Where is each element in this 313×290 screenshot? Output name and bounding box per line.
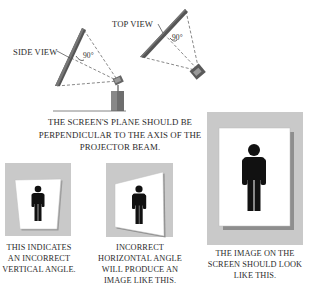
panel-caption-vertical: THIS INDICATES AN INCORRECT VERTICAL ANG… <box>0 242 78 275</box>
panel-caption-correct: THE IMAGE ON THE SCREEN SHOULD LOOK LIKE… <box>202 248 308 281</box>
side-view-projector-icon <box>113 75 124 91</box>
side-view-illustration <box>53 28 126 111</box>
panel-incorrect-horizontal <box>106 163 173 238</box>
pedestal <box>111 91 124 111</box>
panel-caption-horizontal: INCORRECT HORIZONTAL ANGLE WILL PRODUCE … <box>98 242 182 286</box>
top-view-projector-icon <box>190 64 206 80</box>
side-angle-label: 90° <box>83 51 94 60</box>
panel-incorrect-vertical <box>5 163 71 236</box>
top-angle-label: 90° <box>172 33 183 42</box>
side-view-label: SIDE VIEW <box>13 47 57 57</box>
main-caption: THE SCREEN'S PLANE SHOULD BE PERPENDICUL… <box>22 116 218 154</box>
panel-correct-image <box>207 112 303 245</box>
top-view-label: TOP VIEW <box>112 19 153 29</box>
projector-alignment-diagram: SIDE VIEW TOP VIEW 90° 90° THE SCREEN'S … <box>0 0 313 290</box>
